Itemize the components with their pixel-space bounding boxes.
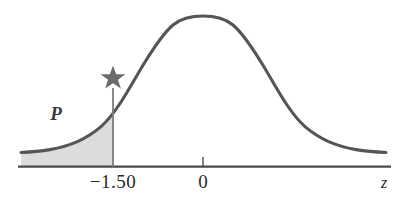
star-icon: [101, 66, 126, 89]
distribution-plot: [0, 0, 405, 200]
normal-curve: [21, 16, 386, 153]
probability-region-label: P: [50, 104, 62, 123]
x-tick-label-zero: 0: [198, 172, 208, 191]
normal-distribution-figure: P −1.50 0 z: [0, 0, 405, 200]
shaded-tail-region: [21, 113, 113, 167]
x-axis-variable-label: z: [381, 175, 387, 191]
x-tick-label-critical-value: −1.50: [90, 172, 136, 191]
